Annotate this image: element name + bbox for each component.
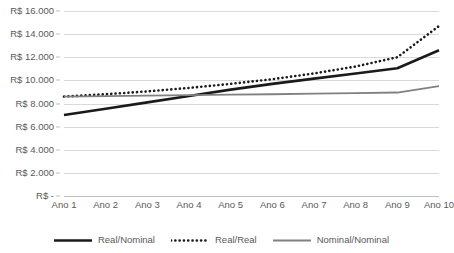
y-axis-tick-label: R$ 6.000 — [15, 122, 54, 132]
x-axis-tick-label: Ano 3 — [135, 199, 160, 211]
y-axis-tick-label: R$ 14.000 — [10, 29, 54, 39]
y-axis-tick-mark — [56, 172, 60, 173]
y-axis-tick-label: R$ 10.000 — [10, 76, 54, 86]
legend-item[interactable]: Nominal/Nominal — [273, 234, 389, 246]
y-axis-tick-mark — [56, 149, 60, 150]
x-axis-tick-label: Ano 8 — [343, 199, 368, 211]
chart-legend: Real/NominalReal/RealNominal/Nominal — [0, 231, 443, 249]
axis-baseline — [64, 196, 439, 197]
legend-line-swatch — [171, 236, 209, 245]
legend-item-label: Real/Real — [215, 234, 257, 246]
x-axis: Ano 1Ano 2Ano 3Ano 4Ano 5Ano 6Ano 7Ano 8… — [64, 199, 439, 215]
y-axis-tick-mark — [56, 34, 60, 35]
legend-item-label: Nominal/Nominal — [317, 234, 389, 246]
y-axis-tick-label: R$ 2.000 — [15, 168, 54, 178]
x-axis-tick-label: Ano 10 — [424, 199, 454, 211]
y-axis-tick-mark — [56, 80, 60, 81]
legend-item[interactable]: Real/Real — [171, 234, 257, 246]
legend-item[interactable]: Real/Nominal — [54, 234, 155, 246]
series-line — [64, 50, 439, 115]
series-lines — [64, 11, 439, 196]
x-axis-tick-label: Ano 9 — [385, 199, 410, 211]
x-axis-tick-label: Ano 2 — [93, 199, 118, 211]
legend-line-swatch — [54, 236, 92, 245]
y-axis-tick-label: R$ 12.000 — [10, 53, 54, 63]
y-axis-tick-mark — [56, 57, 60, 58]
x-axis-tick-label: Ano 6 — [260, 199, 285, 211]
x-axis-tick-label: Ano 7 — [302, 199, 327, 211]
y-axis-tick-label: R$ 16.000 — [10, 6, 54, 16]
y-axis-tick-label: R$ 4.000 — [15, 145, 54, 155]
legend-line-swatch — [273, 236, 311, 245]
plot-area — [64, 11, 439, 196]
y-axis-tick-mark — [56, 103, 60, 104]
legend-item-label: Real/Nominal — [98, 234, 155, 246]
y-axis-tick-label: R$ 8.000 — [15, 99, 54, 109]
y-axis: R$ -R$ 2.000R$ 4.000R$ 6.000R$ 8.000R$ 1… — [0, 0, 60, 207]
x-axis-tick-label: Ano 1 — [52, 199, 77, 211]
y-axis-tick-mark — [56, 126, 60, 127]
x-axis-tick-label: Ano 4 — [177, 199, 202, 211]
x-axis-tick-label: Ano 5 — [218, 199, 243, 211]
y-axis-tick-mark — [56, 196, 60, 197]
y-axis-tick-mark — [56, 11, 60, 12]
